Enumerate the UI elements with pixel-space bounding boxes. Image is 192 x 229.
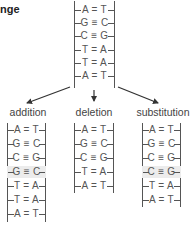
addition-dna-strand: A = T G ≡ C C ≡ G G ≡ C T = A T = A A = …	[7, 123, 46, 222]
substituted-base-pair-row: C ≡ G	[142, 166, 181, 178]
base-pair-row: G ≡ C	[142, 138, 181, 150]
base-pair-row: A = T	[74, 124, 114, 136]
base-pair-row: A = T	[142, 194, 181, 206]
substitution-dna-strand: A = T G ≡ C C ≡ G C ≡ G T = A A = T	[142, 123, 181, 207]
base-pair-row: G ≡ C	[74, 138, 114, 150]
base-pair-row: C ≡ G	[74, 152, 114, 164]
base-pair-row: T = A	[142, 180, 181, 192]
base-pair-row: A = T	[7, 124, 46, 136]
base-pair-row: T = A	[74, 166, 114, 178]
base-pair-row: A = T	[142, 124, 181, 136]
base-pair-row: T = A	[7, 180, 46, 192]
base-pair-row: A = T	[7, 208, 46, 220]
base-pair-row: C ≡ G	[7, 152, 46, 164]
arrow-to-addition	[27, 87, 70, 103]
deletion-label: deletion	[66, 106, 122, 118]
base-pair-row: A = T	[74, 180, 114, 192]
addition-label: addition	[0, 106, 56, 118]
base-pair-row: C ≡ G	[142, 152, 181, 164]
base-pair-row: T = A	[7, 194, 46, 206]
substitution-label: substitution	[134, 106, 192, 118]
inserted-base-pair-row: G ≡ C	[7, 166, 46, 178]
arrow-to-substitution	[118, 87, 158, 103]
deletion-dna-strand: A = T G ≡ C C ≡ G T = A A = T	[74, 123, 114, 193]
base-pair-row: G ≡ C	[7, 138, 46, 150]
